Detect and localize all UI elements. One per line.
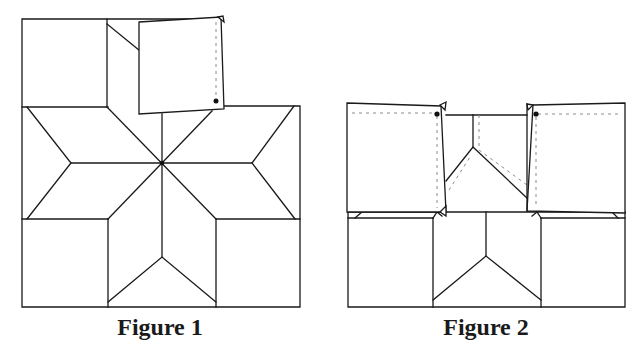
figure1-star-point-right	[252, 106, 295, 219]
figure1-seam-dot	[214, 99, 219, 104]
figure2-star-point-bottom	[433, 256, 541, 300]
figure1-edge	[107, 24, 139, 50]
figure1-center-dot	[160, 161, 164, 165]
figure2-notch	[355, 212, 362, 218]
figure2-right-flap	[527, 103, 625, 213]
figure2-drawing	[347, 102, 625, 307]
figure1-star-point-bottom	[108, 257, 216, 302]
figure2-left-seam-dot	[434, 111, 439, 116]
figure1-folded-flap	[139, 17, 224, 114]
figure1-drawing	[22, 16, 300, 307]
figure1-caption: Figure 1	[60, 314, 260, 341]
figure2-right-flap-tab	[527, 104, 533, 110]
figure2-star-point-top	[446, 147, 527, 198]
figure2-notch	[532, 212, 541, 218]
diagram-canvas	[0, 0, 633, 346]
figure1-star-line	[108, 111, 212, 219]
figure2-caption: Figure 2	[386, 314, 586, 341]
figure2-left-flap	[347, 103, 446, 212]
figure1-star-point-left	[27, 107, 71, 219]
figure2-right-seam-dot	[533, 111, 538, 116]
